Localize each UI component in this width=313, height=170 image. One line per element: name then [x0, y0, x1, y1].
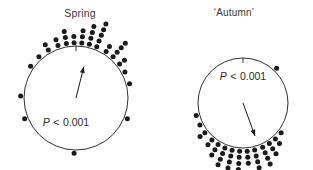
data-point	[212, 147, 217, 152]
data-point	[236, 167, 241, 170]
data-point	[237, 155, 242, 160]
circular-plot-autumn: P<0.001	[155, 0, 313, 170]
data-point	[104, 49, 109, 54]
data-point	[64, 41, 69, 46]
data-point	[209, 152, 214, 157]
pvalue-annotation: P<0.001	[220, 70, 267, 82]
data-point	[274, 151, 279, 156]
data-point	[265, 156, 270, 161]
data-point	[263, 150, 268, 155]
data-point	[277, 141, 282, 146]
data-point	[111, 54, 116, 59]
panel-spring: Spring P<0.001	[0, 0, 160, 170]
data-point	[88, 36, 93, 41]
data-point	[115, 50, 120, 55]
data-point	[216, 142, 221, 147]
data-point	[245, 149, 250, 154]
data-point	[28, 64, 33, 69]
data-point	[81, 28, 86, 33]
data-point	[218, 157, 223, 162]
data-point	[246, 161, 251, 166]
data-point	[71, 34, 76, 39]
data-point	[279, 130, 284, 135]
circular-plot-figure: Spring P<0.001 ‘Autumn’ P<0.001	[0, 0, 313, 170]
data-point	[103, 22, 108, 27]
data-point	[225, 165, 230, 170]
mean-vector-arrow	[76, 67, 85, 98]
data-point	[227, 160, 232, 165]
data-point	[72, 40, 77, 45]
data-point	[270, 146, 275, 151]
data-point-group	[194, 66, 284, 170]
data-point	[46, 48, 51, 53]
data-point	[237, 149, 242, 154]
data-point	[197, 122, 202, 127]
data-point	[123, 41, 128, 46]
data-point	[91, 24, 96, 29]
data-point	[62, 29, 67, 34]
data-point	[117, 61, 122, 66]
data-point	[255, 159, 260, 164]
data-point-group	[18, 22, 132, 156]
circular-plot-spring: P<0.001	[0, 0, 160, 170]
data-point	[194, 113, 199, 118]
data-point	[267, 141, 272, 146]
data-point	[198, 134, 203, 139]
data-point	[274, 66, 279, 71]
data-point	[230, 148, 235, 153]
data-point	[236, 161, 241, 166]
data-point	[228, 154, 233, 159]
data-point	[94, 44, 99, 49]
data-point	[53, 37, 58, 42]
data-point	[97, 38, 102, 43]
data-point	[18, 94, 23, 99]
data-point	[205, 142, 210, 147]
data-point	[252, 147, 257, 152]
data-point	[202, 130, 207, 135]
data-point	[99, 33, 104, 38]
data-point	[257, 165, 262, 170]
data-point	[273, 136, 278, 141]
data-point	[260, 145, 265, 150]
data-point	[209, 138, 214, 143]
data-point	[43, 42, 48, 47]
mean-vector-arrow	[243, 103, 255, 136]
data-point	[268, 161, 273, 166]
data-point	[80, 34, 85, 39]
data-point	[222, 145, 227, 150]
data-point	[55, 43, 60, 48]
data-point	[107, 44, 112, 49]
data-point	[254, 153, 259, 158]
data-point	[216, 162, 221, 167]
data-point	[119, 45, 124, 50]
data-point	[22, 116, 27, 121]
panel-autumn: ‘Autumn’ P<0.001	[155, 0, 313, 170]
data-point	[122, 69, 127, 74]
data-point	[63, 35, 68, 40]
data-point	[220, 151, 225, 156]
data-point	[125, 116, 130, 121]
data-point	[101, 27, 106, 32]
data-point	[90, 30, 95, 35]
data-point	[87, 42, 92, 47]
data-point	[72, 151, 77, 156]
data-point	[245, 155, 250, 160]
pvalue-annotation: P<0.001	[43, 116, 90, 128]
data-point	[127, 81, 132, 86]
data-point	[79, 40, 84, 45]
data-point	[122, 58, 127, 63]
data-point	[36, 54, 41, 59]
